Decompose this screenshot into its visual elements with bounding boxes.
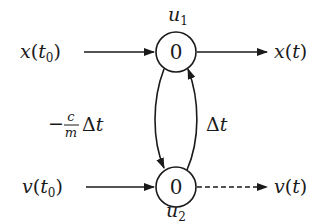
edge-u1-to-u2 <box>155 69 164 168</box>
edge-u1-to-u2-gain-label: − c m Δt <box>48 109 104 140</box>
svg-text:m: m <box>65 125 77 140</box>
node-u1-value: 0 <box>170 40 183 64</box>
node-u1-label: u1 <box>168 3 188 28</box>
edge-u2-to-u1-gain-label: Δt <box>206 113 228 135</box>
node-u2-value: 0 <box>170 175 183 199</box>
svg-text:c: c <box>67 109 75 124</box>
input-x-t0-label: x(t0) <box>20 40 61 65</box>
svg-text:Δt: Δt <box>82 113 104 135</box>
output-x-t-label: x(t) <box>274 40 307 62</box>
node-u1: 0 <box>156 32 196 72</box>
signal-flow-diagram: u1 0 0 u2 x(t0) x(t) v(t0) v(t) − c m <box>0 0 336 222</box>
input-v-t0-label: v(t0) <box>22 175 63 200</box>
output-v-t-label: v(t) <box>274 175 307 197</box>
svg-text:−: − <box>48 112 64 134</box>
edge-u2-to-u1 <box>187 69 197 170</box>
